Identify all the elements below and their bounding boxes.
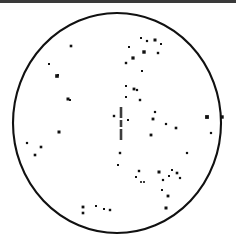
scatter-point	[168, 175, 170, 177]
scatter-point	[127, 119, 129, 121]
scatter-point	[69, 99, 71, 101]
scatter-point	[154, 111, 156, 113]
scatter-point	[140, 37, 142, 39]
scatter-point	[171, 169, 173, 171]
scatter-point	[128, 46, 130, 48]
field-of-view-circle	[13, 13, 221, 233]
scatter-point	[179, 177, 181, 179]
scatter-point	[140, 181, 142, 183]
scatter-point	[175, 127, 178, 130]
scatter-point	[141, 70, 143, 72]
scatter-point	[162, 179, 164, 181]
scatter-point	[165, 123, 167, 125]
scatter-point	[57, 74, 59, 76]
scatter-point	[176, 172, 179, 175]
figure-root	[0, 0, 236, 246]
scatter-point	[220, 115, 223, 118]
scatter-point	[125, 96, 127, 98]
scatter-point	[109, 209, 111, 211]
scatter-points-group	[26, 37, 224, 214]
scatter-point	[125, 85, 127, 87]
scatter-point	[135, 176, 137, 178]
scatter-point	[143, 181, 145, 183]
scatter-point	[160, 43, 162, 45]
scatter-point	[117, 164, 119, 166]
scatter-point	[70, 45, 73, 48]
scatter-point	[167, 195, 170, 198]
scatter-point	[210, 132, 212, 134]
scatter-point	[165, 207, 168, 210]
scatter-point	[133, 88, 136, 91]
scatter-point	[136, 89, 138, 91]
scatter-point	[119, 152, 121, 154]
scatter-point	[34, 154, 37, 157]
scatter-point	[205, 115, 209, 119]
scatter-point	[103, 208, 105, 210]
scatter-point	[150, 134, 153, 137]
scatter-point	[186, 152, 188, 154]
scatter-point	[58, 131, 61, 134]
scatter-point	[161, 189, 163, 191]
scatter-point	[152, 118, 155, 121]
scatter-point	[139, 99, 141, 101]
scatter-point	[40, 146, 43, 149]
scatter-point	[158, 171, 161, 174]
scatter-point	[154, 39, 157, 42]
scatter-point	[125, 62, 127, 64]
scatter-point	[157, 52, 159, 54]
scatter-point	[142, 50, 145, 53]
scatter-point	[131, 56, 134, 59]
scatter-point	[82, 212, 85, 215]
scatter-field-plot	[0, 0, 236, 246]
scatter-point	[113, 115, 115, 117]
scatter-point	[48, 63, 50, 65]
field-outline-group	[13, 13, 221, 233]
scatter-point	[82, 206, 85, 209]
scatter-point	[146, 40, 148, 42]
scatter-point	[138, 170, 140, 172]
scatter-point	[26, 142, 28, 144]
scatter-point	[95, 205, 97, 207]
